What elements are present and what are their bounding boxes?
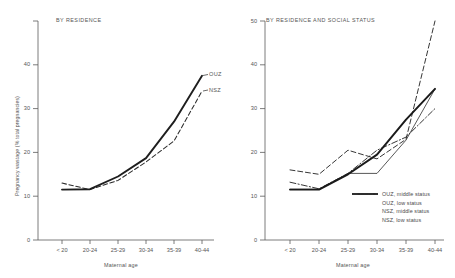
legend-swatch-solid-thin-icon — [352, 216, 378, 224]
left-panel-title: BY RESIDENCE — [56, 17, 101, 23]
right-y-tick-20: 20 — [241, 149, 257, 155]
left-y-tick-20: 20 — [14, 149, 30, 155]
right-x-tick-25-29: 25-29 — [333, 247, 363, 253]
chart-panel-by-residence-and-social-status: BY RESIDENCE AND SOCIAL STATUS 50 40 30 … — [228, 0, 455, 278]
left-x-tick-35-39: 35-39 — [159, 247, 189, 253]
right-series-ouz-low-status — [290, 21, 435, 174]
left-x-tick-40-44: 40-44 — [187, 247, 217, 253]
legend-swatch-dashed-icon — [352, 199, 378, 207]
right-y-tick-50: 50 — [241, 18, 257, 24]
legend: OUZ, middle status OUZ, low status NSZ, … — [352, 190, 430, 224]
left-y-tick-40: 40 — [14, 61, 30, 67]
right-chart-plot — [228, 0, 455, 278]
right-y-tick-0: 0 — [241, 237, 257, 243]
left-x-tick-25-29: 25-29 — [103, 247, 133, 253]
right-panel-title: BY RESIDENCE AND SOCIAL STATUS — [266, 17, 375, 23]
right-x-tick-40-44: 40-44 — [420, 247, 450, 253]
right-series-nsz-low-status — [290, 89, 435, 189]
legend-item-nsz-middle-status: NSZ, middle status — [352, 207, 430, 216]
legend-label-ouz-middle-status: OUZ, middle status — [382, 191, 430, 197]
right-x-tick-35-39: 35-39 — [391, 247, 421, 253]
right-x-tick-30-34: 30-34 — [362, 247, 392, 253]
right-series-nsz-middle-status — [290, 109, 435, 189]
left-x-tick-30-34: 30-34 — [131, 247, 161, 253]
right-y-tick-40: 40 — [241, 61, 257, 67]
right-series-ouz-middle-status — [290, 89, 435, 190]
right-y-tick-30: 30 — [241, 105, 257, 111]
right-x-tick-under20: < 20 — [275, 247, 305, 253]
left-x-axis-title: Maternal age — [104, 262, 138, 268]
legend-item-ouz-low-status: OUZ, low status — [352, 199, 430, 208]
chart-panel-by-residence: BY RESIDENCE Pregnancy wastage (% total … — [0, 0, 228, 278]
left-y-tick-0: 0 — [14, 237, 30, 243]
left-series-ouz — [62, 76, 202, 190]
legend-label-ouz-low-status: OUZ, low status — [382, 200, 422, 206]
legend-label-nsz-low-status: NSZ, low status — [382, 217, 421, 223]
legend-label-nsz-middle-status: NSZ, middle status — [382, 208, 429, 214]
left-series-label-ouz: OUZ — [209, 71, 222, 77]
left-x-tick-under20: < 20 — [47, 247, 77, 253]
right-x-axis-title: Maternal age — [336, 262, 370, 268]
figure-container: BY RESIDENCE Pregnancy wastage (% total … — [0, 0, 455, 278]
right-x-tick-20-24: 20-24 — [304, 247, 334, 253]
left-series-label-nsz: NSZ — [209, 87, 221, 93]
legend-item-nsz-low-status: NSZ, low status — [352, 216, 430, 225]
left-chart-plot — [0, 0, 228, 278]
left-y-tick-30: 30 — [14, 105, 30, 111]
left-x-tick-20-24: 20-24 — [75, 247, 105, 253]
right-y-tick-10: 10 — [241, 193, 257, 199]
left-y-tick-10: 10 — [14, 193, 30, 199]
legend-swatch-dash-dot-icon — [352, 207, 378, 215]
left-series-nsz — [62, 91, 202, 190]
